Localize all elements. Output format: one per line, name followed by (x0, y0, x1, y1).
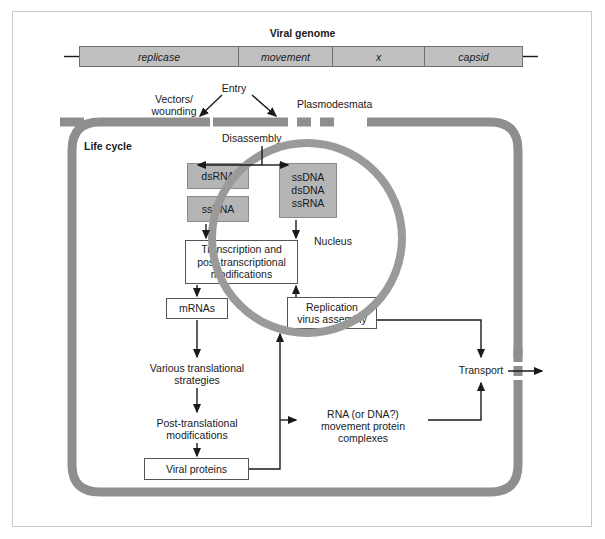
arrow-replication-to-transport (377, 320, 481, 357)
viral-genome-life-cycle-figure: Viral genome replicase movement x capsid… (0, 0, 605, 539)
diagram-vector-layer (0, 0, 605, 539)
cell-wall-upper-right (367, 122, 518, 362)
entry-arrow-left (200, 95, 222, 116)
arrow-viralproteins-to-replication (249, 334, 280, 469)
entry-arrow-right (252, 95, 276, 116)
cell-wall-main (72, 122, 518, 492)
arrow-movementcomplexes-to-transport (428, 383, 481, 420)
nucleus-membrane (212, 143, 402, 333)
